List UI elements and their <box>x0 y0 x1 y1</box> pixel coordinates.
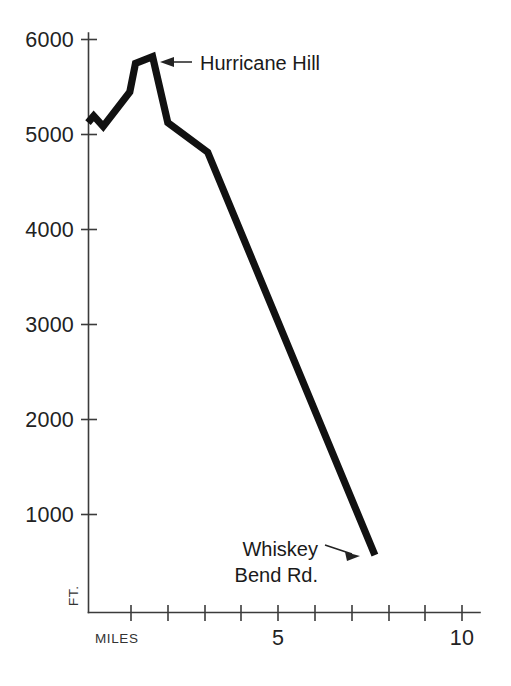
y-tick-label-6000: 6000 <box>25 28 74 52</box>
hurricane-hill-label: Hurricane Hill <box>200 52 320 74</box>
y-tick-label-4000: 4000 <box>25 218 74 242</box>
x-axis-labels: 5 10 <box>272 626 474 650</box>
y-axis-unit-label: FT. <box>66 585 81 606</box>
y-tick-label-2000: 2000 <box>25 408 74 432</box>
x-axis-unit-label: MILES <box>95 631 139 646</box>
y-axis-labels: 6000 5000 4000 3000 2000 1000 <box>25 28 74 527</box>
x-tick-label-10: 10 <box>450 626 474 650</box>
y-tick-label-1000: 1000 <box>25 503 74 527</box>
elevation-profile-chart: 6000 5000 4000 3000 2000 1000 5 10 MILES <box>0 0 511 686</box>
elevation-profile-line <box>88 57 375 556</box>
chart-canvas: 6000 5000 4000 3000 2000 1000 5 10 MILES <box>0 0 511 686</box>
whiskey-bend-arrow-icon <box>345 552 360 561</box>
annotation-whiskey-bend-rd: Whiskey Bend Rd. <box>235 538 360 586</box>
hurricane-hill-arrow-icon <box>160 57 174 67</box>
whiskey-bend-label-line2: Bend Rd. <box>235 564 318 586</box>
x-tick-label-5: 5 <box>272 626 284 650</box>
y-tick-label-3000: 3000 <box>25 313 74 337</box>
annotation-hurricane-hill: Hurricane Hill <box>160 52 320 74</box>
whiskey-bend-leader-line <box>325 545 352 554</box>
whiskey-bend-label-line1: Whiskey <box>242 538 318 560</box>
axis-group <box>89 33 481 613</box>
y-tick-label-5000: 5000 <box>25 123 74 147</box>
